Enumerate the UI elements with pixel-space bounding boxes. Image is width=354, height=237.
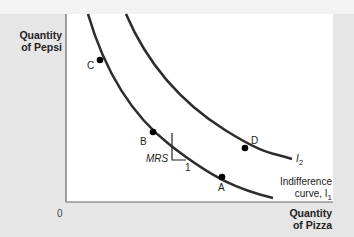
y-axis-label-line1: Quantity (19, 29, 62, 41)
point-a-label: A (218, 182, 225, 193)
i1-label: Indifference curve, I1 (274, 176, 332, 204)
point-b (150, 129, 157, 136)
indifference-curve-i1 (88, 14, 273, 198)
point-c-label: C (87, 60, 94, 71)
i1-label-line2: curve, I1 (274, 188, 332, 204)
mrs-label: MRS (146, 153, 168, 164)
i1-label-text: curve, I (295, 188, 328, 199)
x-axis-label-line1: Quantity (289, 207, 332, 219)
point-d (242, 145, 249, 152)
mrs-run-label: 1 (185, 162, 191, 173)
i2-label: I2 (296, 153, 303, 169)
y-axis-label-line2: of Pepsi (19, 41, 62, 53)
indifference-curve-i2 (126, 14, 292, 159)
point-a (219, 174, 226, 181)
i1-label-sub: 1 (328, 193, 332, 202)
x-axis-label-line2: of Pizza (289, 219, 332, 231)
i1-label-line1: Indifference (274, 176, 332, 188)
origin-label: 0 (57, 208, 63, 219)
x-axis-label: Quantity of Pizza (289, 207, 332, 231)
point-d-label: D (251, 135, 258, 146)
point-c (97, 57, 104, 64)
y-axis-label: Quantity of Pepsi (19, 29, 62, 53)
point-b-label: B (140, 136, 147, 147)
i2-label-sub: 2 (299, 158, 303, 167)
